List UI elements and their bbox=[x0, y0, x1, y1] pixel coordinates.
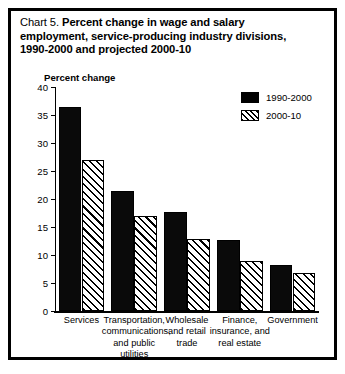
bar-group bbox=[266, 87, 319, 311]
x-axis-category-label-line: real estate bbox=[207, 338, 272, 349]
bar-series-1990-2000 bbox=[217, 240, 240, 311]
chart-title-line-2: employment, service-producing industry d… bbox=[20, 30, 330, 44]
bar-series-2000-10 bbox=[293, 273, 316, 311]
bar-group bbox=[108, 87, 161, 311]
chart-figure: Chart 5. Percent change in wage and sala… bbox=[8, 8, 337, 360]
bar-group bbox=[55, 87, 108, 311]
chart-title-line-1: Chart 5. Percent change in wage and sala… bbox=[20, 16, 330, 30]
bar-series-1990-2000 bbox=[59, 107, 82, 311]
y-tick-label: 40 bbox=[37, 82, 48, 93]
chart-title-line-3: 1990-2000 and projected 2000-10 bbox=[20, 43, 330, 57]
y-tick-label: 20 bbox=[37, 194, 48, 205]
bar-series-1990-2000 bbox=[111, 191, 134, 311]
y-tick-label: 30 bbox=[37, 138, 48, 149]
bar-series-2000-10 bbox=[134, 216, 157, 311]
y-tick-label: 5 bbox=[43, 278, 48, 289]
y-tick-label: 10 bbox=[37, 250, 48, 261]
x-axis-line bbox=[54, 311, 319, 313]
bar-series-2000-10 bbox=[187, 239, 210, 311]
bar-series-2000-10 bbox=[82, 160, 105, 311]
y-tick-label: 25 bbox=[37, 166, 48, 177]
bar-series-2000-10 bbox=[240, 261, 263, 311]
bar-group bbox=[161, 87, 214, 311]
y-tick-label: 0 bbox=[43, 306, 48, 317]
y-tick-mark bbox=[51, 311, 56, 312]
x-axis-category-label: Government bbox=[260, 315, 325, 326]
x-axis-category-labels: ServicesTransportation,communications,an… bbox=[55, 315, 319, 359]
chart-title: Chart 5. Percent change in wage and sala… bbox=[20, 16, 330, 57]
bar-group bbox=[213, 87, 266, 311]
y-tick-label: 15 bbox=[37, 222, 48, 233]
bar-series-1990-2000 bbox=[270, 265, 293, 311]
plot-area: 0510152025303540 bbox=[55, 87, 319, 311]
y-tick-label: 35 bbox=[37, 110, 48, 121]
bars-layer bbox=[55, 87, 319, 311]
y-axis-caption: Percent change bbox=[44, 72, 115, 83]
chart-number-label: Chart 5. bbox=[20, 16, 59, 28]
bar-series-1990-2000 bbox=[164, 212, 187, 311]
x-axis-category-label-line: insurance, and bbox=[207, 326, 272, 337]
chart-title-text-1: Percent change in wage and salary bbox=[62, 16, 245, 28]
x-axis-category-label-line: Government bbox=[260, 315, 325, 326]
